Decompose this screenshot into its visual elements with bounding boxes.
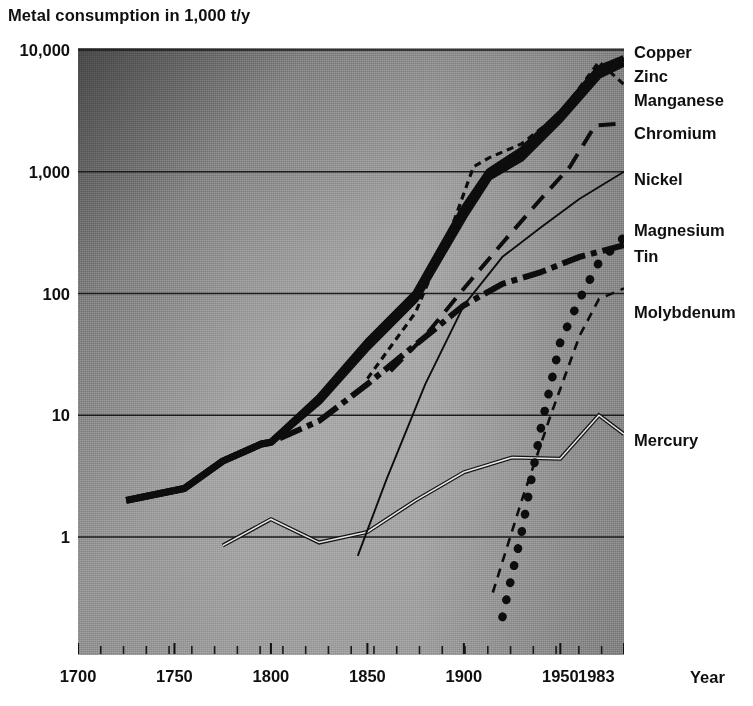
x-axis-tick-label: 1700 (60, 668, 97, 685)
series-copper (126, 59, 624, 501)
series-manganese (367, 62, 624, 379)
series-canvas (78, 48, 624, 655)
chart-title: Metal consumption in 1,000 t/y (8, 6, 250, 25)
x-axis-tick-label: 1850 (349, 668, 386, 685)
y-axis-tick-label: 10 (2, 407, 70, 424)
chart-root: Metal consumption in 1,000 t/y 1101001,0… (0, 0, 753, 706)
y-axis-tick-label: 1 (2, 529, 70, 546)
legend-label-copper: Copper (634, 44, 692, 61)
y-axis-tick-label: 10,000 (2, 42, 70, 59)
x-axis-unit-label: Year (690, 668, 725, 687)
legend-label-manganese: Manganese (634, 92, 724, 109)
series-line (126, 245, 624, 500)
legend-label-molybdenum: Molybdenum (634, 304, 736, 321)
series-line (493, 288, 624, 592)
x-axis-tick-label: 1983 (578, 668, 615, 685)
legend-label-zinc: Zinc (634, 68, 668, 85)
y-axis-tick-label: 100 (2, 286, 70, 303)
legend-label-nickel: Nickel (634, 171, 683, 188)
series-molybdenum (493, 288, 624, 592)
legend-label-mercury: Mercury (634, 432, 698, 449)
legend-label-magnesium: Magnesium (634, 222, 725, 239)
x-axis-tick-label: 1800 (253, 668, 290, 685)
series-line (126, 59, 624, 501)
plot-area (78, 48, 624, 655)
x-axis-tick-label: 1750 (156, 668, 193, 685)
x-axis-tick-label: 1900 (446, 668, 483, 685)
x-axis-tick-label: 1950 (542, 668, 579, 685)
series-line (367, 62, 624, 379)
legend-label-chromium: Chromium (634, 125, 717, 142)
y-axis-tick-label: 1,000 (2, 164, 70, 181)
legend-label-tin: Tin (634, 248, 658, 265)
series-tin (126, 245, 624, 500)
